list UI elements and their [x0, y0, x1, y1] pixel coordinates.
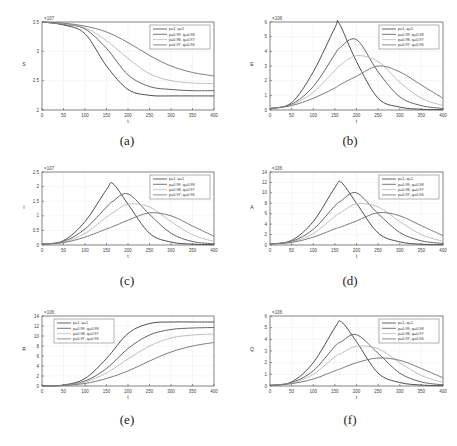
x-tick-label: 400: [210, 113, 218, 118]
legend-entry: p=0.98, q=0.97: [169, 188, 195, 192]
legend-entry: p=1, q=1: [398, 321, 413, 325]
y-tick-label: 12: [262, 180, 268, 185]
panel-e: 05010015020025030035040002468101214×106t…: [0, 294, 228, 410]
legend-entry: p=0.97, q=0.96: [398, 193, 424, 197]
x-tick-label: 250: [146, 389, 154, 394]
legend: p=1, q=1p=0.99, q=0.98p=0.98, q=0.97p=0.…: [379, 319, 439, 343]
y-axis-label: I: [23, 204, 24, 210]
x-tick-label: 300: [167, 389, 175, 394]
legend-entry: p=0.99, q=0.98: [73, 327, 99, 331]
y-tick-label: 4: [264, 337, 267, 342]
y-tick-label: 12: [34, 324, 40, 329]
legend-entry: p=0.98, q=0.97: [398, 38, 424, 42]
y-tick-label: 4: [264, 222, 267, 227]
legend-entry: p=0.99, q=0.98: [398, 33, 424, 37]
y-tick-label: 3: [264, 64, 267, 69]
panel-c: 05010015020025030035040000.511.522.5×107…: [0, 150, 228, 269]
x-tick-label: 300: [396, 113, 404, 118]
legend-entry: p=0.97, q=0.96: [169, 43, 195, 47]
legend-entry: p=0.99, q=0.98: [169, 183, 195, 187]
legend-entry: p=1, q=1: [73, 321, 88, 325]
y-axis-label: R: [22, 346, 26, 352]
x-axis-label: t: [127, 118, 129, 124]
y-tick-label: 4: [264, 49, 267, 54]
y-tick-label: 2: [264, 78, 267, 83]
x-tick-label: 350: [418, 248, 426, 253]
x-tick-label: 400: [439, 113, 447, 118]
x-tick-label: 350: [189, 248, 197, 253]
y-tick-label: 2: [36, 108, 39, 113]
y-tick-label: 1: [264, 93, 267, 98]
legend-entry: p=1, q=1: [398, 177, 413, 181]
x-tick-label: 50: [289, 113, 295, 118]
y-tick-label: 0.5: [33, 228, 40, 233]
caption-a: (a): [97, 133, 157, 149]
panel-b: 0501001502002503003504000123456×106tEp=1…: [228, 0, 457, 134]
caption-d: (d): [320, 273, 380, 289]
y-tick-label: 2.5: [33, 78, 40, 83]
chart-e: 05010015020025030035040002468101214×106t…: [0, 294, 228, 406]
x-tick-label: 250: [146, 113, 154, 118]
panel-d: 05010015020025030035040002468101214×106t…: [228, 150, 457, 269]
y-tick-label: 3: [36, 49, 39, 54]
x-tick-label: 250: [374, 113, 382, 118]
legend-entry: p=0.99, q=0.98: [398, 327, 424, 331]
x-tick-label: 150: [103, 113, 111, 118]
x-axis-label: t: [127, 253, 129, 259]
y-tick-label: 1: [36, 213, 39, 218]
x-tick-label: 100: [81, 113, 89, 118]
axis-exponent: ×106: [44, 310, 55, 315]
x-tick-label: 0: [269, 389, 272, 394]
y-tick-label: 5: [264, 34, 267, 39]
x-tick-label: 150: [103, 389, 111, 394]
y-tick-label: 6: [264, 211, 267, 216]
x-tick-label: 150: [103, 248, 111, 253]
axis-exponent: ×106: [272, 16, 283, 21]
x-axis-label: t: [356, 118, 358, 124]
x-tick-label: 400: [210, 248, 218, 253]
x-tick-label: 150: [331, 389, 339, 394]
y-tick-label: 2: [36, 184, 39, 189]
legend-entry: p=0.97, q=0.96: [398, 43, 424, 47]
y-tick-label: 0: [36, 384, 39, 389]
axis-exponent: ×106: [272, 166, 283, 171]
chart-a: 05010015020025030035040022.533.5×107tSp=…: [0, 0, 228, 130]
x-tick-label: 50: [61, 113, 67, 118]
x-tick-label: 400: [439, 248, 447, 253]
x-tick-label: 300: [167, 248, 175, 253]
y-tick-label: 8: [36, 344, 39, 349]
x-tick-label: 0: [41, 389, 44, 394]
x-tick-label: 350: [418, 113, 426, 118]
x-tick-label: 350: [189, 113, 197, 118]
axis-exponent: ×107: [44, 166, 55, 171]
x-tick-label: 50: [289, 389, 295, 394]
legend: p=1, q=1p=0.99, q=0.98p=0.98, q=0.97p=0.…: [54, 319, 114, 343]
x-tick-label: 0: [41, 248, 44, 253]
x-tick-label: 100: [81, 248, 89, 253]
x-tick-label: 150: [331, 113, 339, 118]
x-tick-label: 250: [374, 389, 382, 394]
x-axis-label: t: [127, 394, 129, 400]
y-tick-label: 8: [264, 201, 267, 206]
y-tick-label: 0: [264, 108, 267, 113]
y-tick-label: 2: [264, 232, 267, 237]
y-tick-label: 4: [36, 364, 39, 369]
y-tick-label: 14: [262, 170, 268, 175]
y-tick-label: 14: [34, 314, 40, 319]
x-tick-label: 300: [167, 113, 175, 118]
legend-entry: p=0.97, q=0.96: [398, 337, 424, 341]
legend-entry: p=0.98, q=0.97: [398, 188, 424, 192]
y-axis-label: S: [22, 61, 26, 67]
x-tick-label: 400: [439, 389, 447, 394]
x-tick-label: 0: [269, 248, 272, 253]
x-tick-label: 350: [418, 389, 426, 394]
legend-entry: p=1, q=1: [169, 27, 184, 31]
x-tick-label: 50: [61, 248, 67, 253]
y-tick-label: 2: [36, 374, 39, 379]
chart-b: 0501001502002503003504000123456×106tEp=1…: [228, 0, 457, 130]
y-tick-label: 0: [264, 243, 267, 248]
y-axis-label: Q: [250, 346, 254, 352]
chart-d: 05010015020025030035040002468101214×106t…: [228, 150, 457, 265]
x-tick-label: 50: [289, 248, 295, 253]
legend: p=1, q=1p=0.99, q=0.98p=0.98, q=0.97p=0.…: [150, 175, 210, 199]
